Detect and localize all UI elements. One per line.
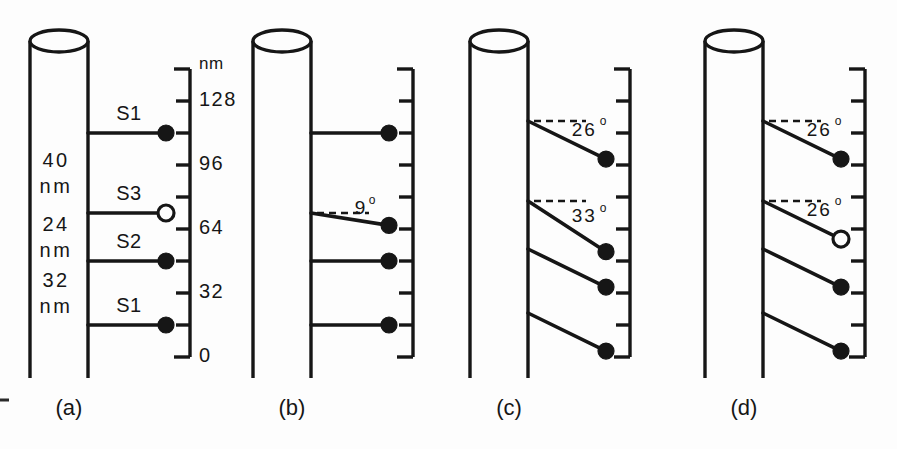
marker-d-3 xyxy=(763,249,849,295)
scale-tick-label: 0 xyxy=(199,344,212,366)
scale-axis-b xyxy=(397,69,413,357)
dimension-unit: nm xyxy=(40,239,73,261)
marker-dot-filled xyxy=(381,253,397,269)
segment-label: S1 xyxy=(116,102,141,124)
marker-dot-filled xyxy=(833,151,849,167)
segment-label: S1 xyxy=(116,294,141,316)
panel-c: 26o33o(c) xyxy=(470,30,630,420)
marker-dot-filled xyxy=(158,317,174,333)
cylinder-top-ellipse xyxy=(705,30,763,52)
cylinder-b xyxy=(253,30,311,378)
marker-dot-filled xyxy=(598,279,614,295)
marker-a-2: S3 xyxy=(88,182,174,221)
scale-unit-label: nm xyxy=(199,54,224,73)
scale-tick-label: 96 xyxy=(199,152,224,174)
marker-dot-filled xyxy=(598,343,614,359)
marker-dot-filled xyxy=(158,125,174,141)
marker-d-2: 26o xyxy=(763,194,849,247)
marker-b-4 xyxy=(311,317,397,333)
scale-tick-label: 64 xyxy=(199,216,224,238)
protofilament-marker-line xyxy=(311,213,389,225)
cylinder-d xyxy=(705,30,763,378)
angle-value: 33 xyxy=(572,205,597,226)
marker-dot-filled xyxy=(158,253,174,269)
marker-d-1: 26o xyxy=(763,114,849,167)
scale-axis-d xyxy=(849,69,865,357)
cylinder-a xyxy=(30,30,88,378)
marker-d-4 xyxy=(763,313,849,359)
panel-a: nm128966432040nm24nm32nmS1S3S2S1(a) xyxy=(30,30,237,420)
panel-b: 9o(b) xyxy=(253,30,413,420)
marker-dot-open xyxy=(158,205,174,221)
marker-b-3 xyxy=(311,253,397,269)
cylinder-c xyxy=(470,30,528,378)
angle-value: 26 xyxy=(807,119,832,140)
marker-dot-filled xyxy=(381,317,397,333)
degree-symbol-icon: o xyxy=(600,201,607,215)
marker-dot-filled xyxy=(833,343,849,359)
marker-b-2: 9o xyxy=(311,193,397,234)
microtubule-seam-figure: nm128966432040nm24nm32nmS1S3S2S1(a)9o(b)… xyxy=(0,0,897,449)
marker-c-2: 33o xyxy=(528,201,614,260)
marker-a-4: S1 xyxy=(88,294,174,333)
protofilament-marker-line xyxy=(528,313,606,351)
marker-dot-filled xyxy=(381,217,397,233)
dimension-unit: nm xyxy=(40,175,73,197)
panel-caption-d: (d) xyxy=(731,395,758,420)
marker-dot-filled xyxy=(381,125,397,141)
marker-b-1 xyxy=(311,125,397,141)
marker-c-4 xyxy=(528,313,614,359)
protofilament-marker-line xyxy=(763,313,841,351)
marker-a-1: S1 xyxy=(88,102,174,141)
scale-axis-a xyxy=(174,69,190,357)
segment-label: S3 xyxy=(116,182,141,204)
cylinder-top-ellipse xyxy=(30,30,88,52)
cylinder-top-ellipse xyxy=(470,30,528,52)
angle-value: 26 xyxy=(572,119,597,140)
marker-c-1: 26o xyxy=(528,114,614,167)
marker-dot-filled xyxy=(598,244,614,260)
dimension-value: 40 xyxy=(42,149,69,171)
panel-caption-a: (a) xyxy=(56,395,83,420)
angle-value: 9 xyxy=(355,197,368,218)
degree-symbol-icon: o xyxy=(835,194,842,208)
dimension-value: 32 xyxy=(42,269,69,291)
cylinder-top-ellipse xyxy=(253,30,311,52)
panel-caption-b: (b) xyxy=(279,395,306,420)
dimension-value: 24 xyxy=(42,213,69,235)
scale-tick-label: 32 xyxy=(199,280,224,302)
protofilament-marker-line xyxy=(528,249,606,287)
panel-d: 26o26o(d) xyxy=(705,30,865,420)
marker-dot-filled xyxy=(833,279,849,295)
scale-labels: nm1289664320 xyxy=(199,54,237,366)
marker-dot-filled xyxy=(598,151,614,167)
figure-root: nm128966432040nm24nm32nmS1S3S2S1(a)9o(b)… xyxy=(0,0,897,449)
marker-a-3: S2 xyxy=(88,230,174,269)
angle-value: 26 xyxy=(807,199,832,220)
segment-label: S2 xyxy=(116,230,141,252)
protofilament-marker-line xyxy=(763,249,841,287)
dimension-labels: 40nm24nm32nm xyxy=(40,149,73,317)
scale-axis-c xyxy=(614,69,630,357)
dimension-unit: nm xyxy=(40,295,73,317)
marker-dot-open xyxy=(833,231,849,247)
scale-tick-label: 128 xyxy=(199,88,237,110)
degree-symbol-icon: o xyxy=(369,193,376,207)
degree-symbol-icon: o xyxy=(835,114,842,128)
degree-symbol-icon: o xyxy=(600,114,607,128)
panel-caption-c: (c) xyxy=(496,395,522,420)
